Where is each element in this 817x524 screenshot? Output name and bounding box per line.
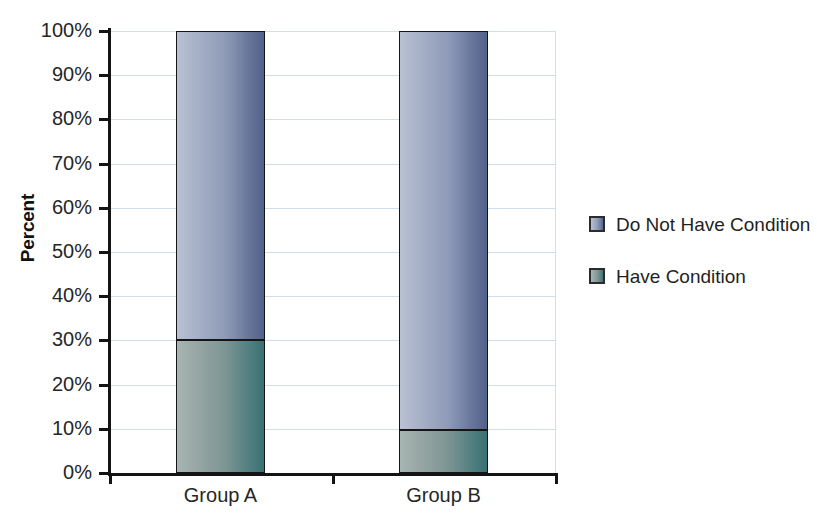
- y-axis-tick: [99, 428, 110, 431]
- y-axis-tick: [99, 207, 110, 210]
- legend-label: Do Not Have Condition: [616, 215, 810, 234]
- bar-segment[interactable]: [399, 31, 488, 430]
- y-axis-tick-label: 60%: [52, 197, 92, 217]
- y-axis-tick: [99, 339, 110, 342]
- chart-legend: Do Not Have ConditionHave Condition: [589, 213, 810, 317]
- x-axis-tick-label: Group A: [121, 484, 321, 507]
- y-axis-tick-label: 20%: [52, 374, 92, 394]
- y-axis-tick-label: 10%: [52, 418, 92, 438]
- y-axis-tick: [99, 118, 110, 121]
- x-axis-tick-label: Group B: [344, 484, 544, 507]
- bar-stack[interactable]: [399, 31, 488, 473]
- stacked-bar-chart: Percent 0%10%20%30%40%50%60%70%80%90%100…: [0, 0, 817, 524]
- bar-segment[interactable]: [399, 430, 488, 473]
- x-axis-tick: [555, 473, 558, 484]
- y-axis-tick: [99, 30, 110, 33]
- legend-swatch-have-condition: [589, 268, 605, 284]
- legend-item[interactable]: Do Not Have Condition: [589, 213, 810, 235]
- bar-segment[interactable]: [176, 31, 265, 340]
- y-axis-tick-label: 40%: [52, 285, 92, 305]
- y-axis-tick-label: 100%: [41, 20, 92, 40]
- y-axis-tick: [99, 384, 110, 387]
- bar-stack[interactable]: [176, 31, 265, 473]
- x-axis-tick: [332, 473, 335, 484]
- y-axis-tick-label: 80%: [52, 108, 92, 128]
- y-axis-tick: [99, 295, 110, 298]
- legend-label: Have Condition: [616, 267, 746, 286]
- y-axis-tick-label: 30%: [52, 329, 92, 349]
- y-axis-tick: [99, 251, 110, 254]
- y-axis-tick: [99, 74, 110, 77]
- y-axis-tick-label: 50%: [52, 241, 92, 261]
- y-axis-tick-label: 0%: [63, 462, 92, 482]
- y-axis-tick-label: 90%: [52, 64, 92, 84]
- legend-swatch-do-not-have-condition: [589, 216, 605, 232]
- bar-segment[interactable]: [176, 340, 265, 473]
- x-axis-tick: [109, 473, 112, 484]
- y-axis-tick: [99, 163, 110, 166]
- y-axis-title: Percent: [17, 178, 39, 278]
- legend-item[interactable]: Have Condition: [589, 265, 810, 287]
- y-axis-tick-label: 70%: [52, 153, 92, 173]
